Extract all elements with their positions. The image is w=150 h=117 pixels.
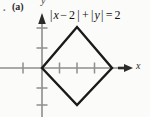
y-axis-arrowhead: [38, 13, 46, 24]
equation-right-hand-side: 2: [114, 8, 122, 22]
y-axis-label: y: [41, 0, 45, 6]
equation-plus-sign: +: [81, 8, 90, 22]
part-label: (a): [12, 2, 24, 12]
x-axis-arrowhead: [124, 64, 133, 72]
figure-panel: . (a) y x |x−2|+|y|=2: [0, 0, 150, 117]
equation-label: |x−2|+|y|=2: [49, 9, 122, 21]
equation-minus-sign: −: [59, 8, 68, 22]
x-axis-label: x: [136, 61, 140, 71]
equation-bar-4: |: [100, 8, 105, 22]
equation-equals-sign: =: [105, 8, 114, 22]
leading-punctuation: .: [3, 3, 6, 13]
